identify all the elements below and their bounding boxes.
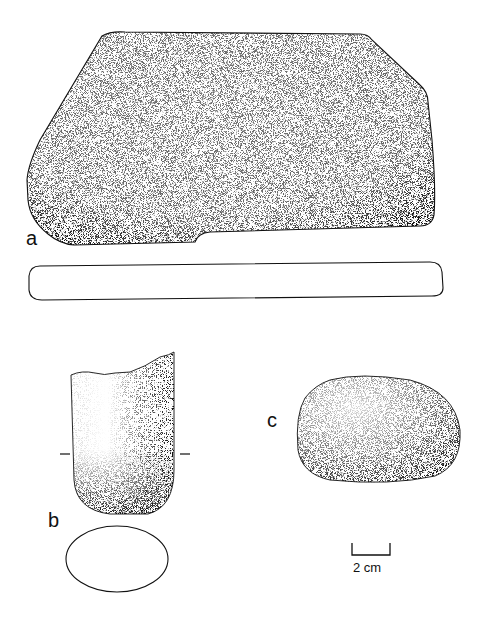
- pestle-side-view: [60, 352, 190, 514]
- label-c: c: [267, 410, 277, 430]
- scale-bar-label: 2 cm: [353, 561, 381, 574]
- slab-plan-view: [27, 32, 435, 245]
- label-a: a: [26, 228, 37, 248]
- label-b: b: [48, 510, 59, 530]
- artifact-illustration: [0, 0, 484, 620]
- hammerstone: [297, 376, 460, 482]
- scale-bar: [352, 543, 390, 555]
- pestle-cross-section: [66, 526, 168, 592]
- slab-profile-section: [29, 262, 443, 300]
